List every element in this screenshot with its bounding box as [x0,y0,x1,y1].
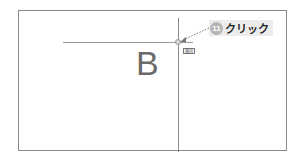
callout-text: クリック [225,20,269,36]
step-number-badge: 11 [210,22,223,35]
instruction-callout: 11 クリック [209,20,273,36]
